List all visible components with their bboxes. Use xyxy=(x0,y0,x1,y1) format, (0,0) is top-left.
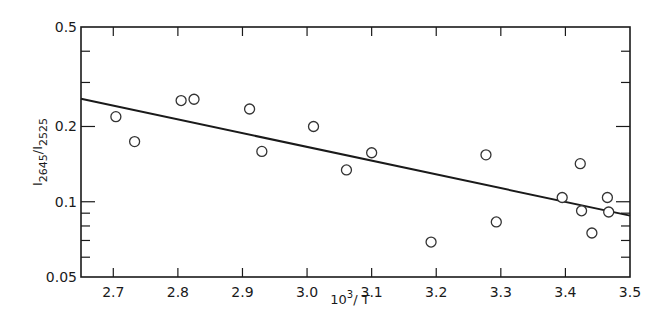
scatter-chart: 2.72.82.93.03.13.23.33.43.50.050.10.20.5… xyxy=(0,0,661,332)
plot-frame xyxy=(81,27,630,277)
y-tick-label: 0.05 xyxy=(46,269,77,285)
data-point xyxy=(130,137,140,147)
data-point xyxy=(557,192,567,202)
x-tick-label: 3.4 xyxy=(554,284,576,300)
data-point xyxy=(257,146,267,156)
data-point xyxy=(367,148,377,158)
data-point xyxy=(491,217,501,227)
data-point xyxy=(341,165,351,175)
y-tick-label: 0.5 xyxy=(55,19,77,35)
data-point xyxy=(481,150,491,160)
data-point xyxy=(426,237,436,247)
x-tick-label: 3.0 xyxy=(296,284,318,300)
x-tick-label: 3.3 xyxy=(490,284,512,300)
x-tick-label: 3.5 xyxy=(619,284,641,300)
x-tick-label: 2.8 xyxy=(167,284,189,300)
y-tick-label: 0.2 xyxy=(55,118,77,134)
data-point xyxy=(245,104,255,114)
fit-line xyxy=(81,99,630,216)
data-points xyxy=(111,94,614,247)
data-point xyxy=(604,207,614,217)
data-point xyxy=(111,112,121,122)
x-tick-label: 2.7 xyxy=(102,284,124,300)
data-point xyxy=(189,94,199,104)
x-tick-label: 3.2 xyxy=(425,284,447,300)
data-point xyxy=(602,192,612,202)
data-point xyxy=(577,206,587,216)
data-point xyxy=(309,121,319,131)
plot-border xyxy=(81,27,630,277)
y-tick-label: 0.1 xyxy=(55,194,77,210)
x-tick-label: 2.9 xyxy=(231,284,253,300)
data-point xyxy=(575,159,585,169)
axis-ticks: 2.72.82.93.03.13.23.33.43.50.050.10.20.5 xyxy=(46,19,641,300)
y-axis-label: I2645/I2525 xyxy=(30,118,50,186)
data-point xyxy=(176,96,186,106)
regression-line xyxy=(81,99,630,216)
x-axis-label: 103/ T xyxy=(330,289,369,307)
data-point xyxy=(587,228,597,238)
